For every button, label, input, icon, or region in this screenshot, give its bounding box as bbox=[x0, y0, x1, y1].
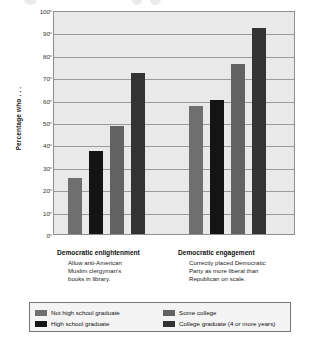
y-axis-tick-mark bbox=[49, 33, 52, 34]
legend-swatch-icon bbox=[35, 310, 47, 316]
bar bbox=[68, 178, 82, 234]
y-axis-tick-labels: 1009080706050403020100 bbox=[27, 11, 53, 235]
bars-layer bbox=[54, 12, 294, 234]
legend-label: High school graduate bbox=[51, 320, 109, 327]
y-axis-tick-mark bbox=[49, 212, 52, 213]
category-description-line: Correctly placed Democratic bbox=[189, 259, 299, 267]
category-label-block: Democratic engagementCorrectly placed De… bbox=[178, 249, 299, 284]
y-axis-tick-mark bbox=[49, 190, 52, 191]
y-axis-title: Percentage who . . . bbox=[15, 64, 22, 174]
legend-swatch-icon bbox=[163, 321, 175, 327]
category-description: Correctly placed DemocraticParty as more… bbox=[189, 259, 299, 284]
bar bbox=[210, 100, 224, 234]
legend-label: Some college bbox=[179, 309, 217, 316]
bar bbox=[252, 28, 266, 234]
legend-item[interactable]: College graduate (4 or more years) bbox=[163, 320, 287, 327]
category-labels: Democratic enlightenmentAllow anti-Ameri… bbox=[53, 249, 295, 295]
bar bbox=[231, 64, 245, 234]
category-label: Democratic engagement bbox=[178, 249, 299, 256]
legend-label: College graduate (4 or more years) bbox=[179, 320, 275, 327]
bar-chart-figure: Percentage who . . . 1009080706050403020… bbox=[0, 0, 314, 343]
legend-item[interactable]: Some college bbox=[163, 309, 287, 316]
legend-swatch-icon bbox=[35, 321, 47, 327]
legend-label: Not high school graduate bbox=[51, 309, 120, 316]
category-description-line: Muslim clergyman's bbox=[68, 267, 178, 275]
y-axis-tick-mark bbox=[49, 11, 52, 12]
y-axis-tick-mark bbox=[49, 235, 52, 236]
category-label-block: Democratic enlightenmentAllow anti-Ameri… bbox=[57, 249, 178, 284]
legend-item[interactable]: Not high school graduate bbox=[35, 309, 163, 316]
bar bbox=[189, 106, 203, 234]
bar bbox=[131, 73, 145, 234]
y-axis-tick-mark bbox=[49, 100, 52, 101]
bar bbox=[89, 151, 103, 234]
category-description-line: books in library. bbox=[68, 275, 178, 283]
legend-item[interactable]: High school graduate bbox=[35, 320, 163, 327]
y-axis-tick-mark bbox=[49, 55, 52, 56]
chart-legend: Not high school graduateSome collegeHigh… bbox=[29, 302, 291, 332]
plot-area bbox=[53, 11, 295, 235]
category-description-line: Allow anti-American bbox=[68, 259, 178, 267]
category-description: Allow anti-AmericanMuslim clergyman'sboo… bbox=[68, 259, 178, 284]
category-description-line: Party as more liberal than bbox=[189, 267, 299, 275]
y-axis-tick-mark bbox=[49, 167, 52, 168]
category-label: Democratic enlightenment bbox=[57, 249, 178, 256]
y-axis-tick-mark bbox=[49, 145, 52, 146]
legend-swatch-icon bbox=[163, 310, 175, 316]
bar bbox=[110, 126, 124, 234]
plot-wrapper: Percentage who . . . 1009080706050403020… bbox=[0, 11, 314, 247]
y-axis-tick-mark bbox=[49, 123, 52, 124]
y-axis-tick-mark bbox=[49, 78, 52, 79]
category-description-line: Republican on scale. bbox=[189, 275, 299, 283]
